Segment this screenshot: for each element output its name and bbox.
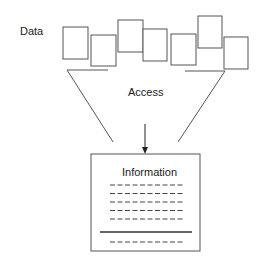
data-box-4	[143, 29, 167, 61]
funnel-right-side	[178, 71, 225, 142]
data-box-7	[224, 37, 248, 69]
funnel	[67, 70, 225, 142]
information-label: Information	[122, 166, 177, 178]
access-label: Access	[128, 86, 163, 98]
arrow-down-icon	[142, 124, 148, 154]
funnel-left-side	[67, 70, 113, 142]
data-box-5	[171, 34, 196, 65]
data-box-6	[198, 16, 222, 48]
data-box-3	[118, 20, 143, 52]
data-box-2	[91, 35, 116, 66]
data-box-1	[63, 27, 88, 59]
data-to-information-diagram	[0, 0, 262, 262]
data-label: Data	[20, 25, 43, 37]
data-boxes	[63, 16, 248, 69]
